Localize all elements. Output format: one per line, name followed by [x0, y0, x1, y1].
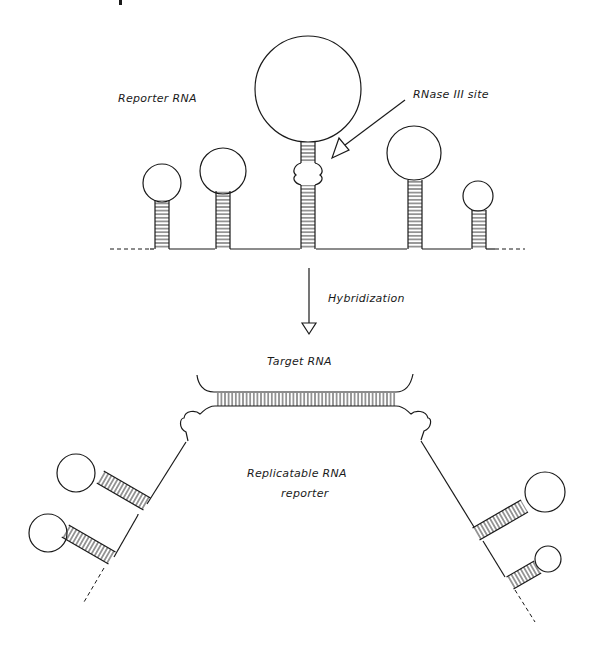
hairpin-1 [143, 164, 181, 249]
hybridization-arrow [302, 268, 316, 334]
left-hairpin-2 [29, 514, 116, 564]
loop-circle [57, 454, 95, 492]
right-junction-bulge [396, 406, 431, 440]
loop-circle [143, 164, 181, 202]
loop-circle [463, 181, 493, 211]
loop-circle [29, 514, 67, 552]
target-rna-label: Target RNA [267, 355, 332, 368]
target-rna-strand [197, 374, 413, 392]
left-junction-bulge [181, 406, 216, 441]
reporter-rna-label: Reporter RNA [118, 92, 197, 105]
replicatable-reporter: Target RNA [29, 355, 565, 622]
replicatable-label-line2: reporter [281, 487, 330, 500]
hairpin-3-rnase-site [255, 36, 361, 249]
loop-circle [525, 472, 565, 512]
hairpin-2 [200, 148, 246, 249]
loop-circle [200, 148, 246, 194]
hybridization-label: Hybridization [328, 292, 405, 305]
rnase-site-label: RNase III site [413, 88, 489, 101]
hairpin-4 [387, 126, 441, 249]
loop-circle [535, 546, 561, 572]
hybrid-duplex [216, 393, 396, 406]
loop-circle [387, 126, 441, 180]
right-hairpin-1 [473, 472, 566, 540]
rnase-site-bulge [294, 163, 322, 185]
hairpin-5 [463, 181, 493, 249]
loop-circle [255, 36, 361, 142]
rna-diagram: Reporter RNA [0, 0, 595, 648]
right-hairpin-2 [507, 546, 562, 589]
replicatable-label-line1: Replicatable RNA [247, 467, 347, 480]
reporter-rna: Reporter RNA [110, 36, 525, 249]
cropped-glyph [119, 0, 122, 5]
left-hairpin-1 [57, 454, 151, 510]
